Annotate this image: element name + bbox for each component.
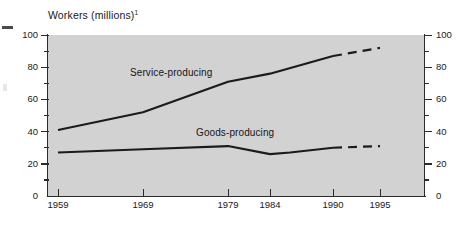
y-label-left-60: 60 (14, 94, 38, 104)
y-label-left-100: 100 (14, 30, 38, 40)
y-tick-left-50 (44, 115, 49, 116)
y-tick-left-40 (41, 131, 49, 132)
y-tick-right-90 (424, 51, 429, 52)
y-tick-left-30 (44, 147, 49, 148)
y-label-left-20: 20 (14, 159, 38, 169)
y-tick-right-50 (424, 115, 429, 116)
x-tick-1995 (380, 189, 381, 196)
x-tick-1979 (228, 189, 229, 196)
y-label-right-20: 20 (436, 159, 462, 169)
y-label-left-80: 80 (14, 62, 38, 72)
y-tick-right-100 (424, 35, 432, 36)
page-margin-speck (3, 84, 7, 91)
x-label-1990: 1990 (313, 199, 353, 210)
y-tick-left-20 (41, 163, 49, 164)
y-label-right-0: 0 (436, 191, 462, 201)
series-label-goods-producing: Goods-producing (196, 127, 274, 138)
y-label-left-40: 40 (14, 127, 38, 137)
x-tick-1959 (58, 189, 59, 196)
y-tick-left-100 (41, 35, 49, 36)
y-tick-left-70 (44, 83, 49, 84)
y-label-right-40: 40 (436, 127, 462, 137)
y-label-right-60: 60 (436, 94, 462, 104)
plot-area (48, 35, 424, 196)
y-label-right-80: 80 (436, 62, 462, 72)
chart-title-footnote-marker: 1 (135, 9, 139, 16)
x-label-1984: 1984 (250, 199, 290, 210)
x-axis-spine (47, 196, 426, 197)
y-label-right-100: 100 (436, 30, 462, 40)
y-tick-right-30 (424, 147, 429, 148)
y-tick-right-40 (424, 131, 432, 132)
y-tick-left-60 (41, 99, 49, 100)
x-tick-1990 (333, 189, 334, 196)
x-label-1969: 1969 (123, 199, 163, 210)
x-label-1995: 1995 (360, 199, 400, 210)
y-tick-right-80 (424, 67, 432, 68)
x-tick-1984 (270, 189, 271, 196)
x-label-1979: 1979 (208, 199, 248, 210)
chart-title: Workers (millions)1 (48, 9, 138, 21)
series-label-service-producing: Service-producing (130, 67, 212, 78)
y-tick-left-90 (44, 51, 49, 52)
chart-title-text: Workers (millions) (48, 9, 135, 21)
y-tick-right-60 (424, 99, 432, 100)
x-tick-1969 (143, 189, 144, 196)
page-margin-rule (2, 26, 13, 29)
y-tick-right-20 (424, 163, 432, 164)
y-tick-left-80 (41, 67, 49, 68)
x-label-1959: 1959 (38, 199, 78, 210)
y-label-left-0: 0 (14, 191, 38, 201)
y-tick-left-10 (44, 179, 49, 180)
y-tick-right-10 (424, 179, 429, 180)
employment-projection-chart: Workers (millions)1 100 80 60 40 20 0 10… (0, 0, 472, 230)
y-tick-right-70 (424, 83, 429, 84)
